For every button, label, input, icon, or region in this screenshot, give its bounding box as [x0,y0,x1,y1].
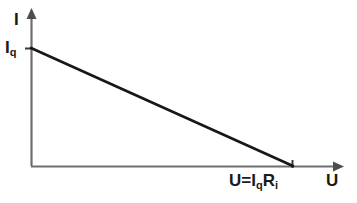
x-intercept-label: U=IqRi [229,172,278,189]
y-intercept-label-sub: q [10,46,17,58]
y-axis-arrow-icon [27,8,37,19]
plot-canvas [0,0,357,203]
x-intercept-prefix: U=I [229,171,256,190]
x-axis-arrow-icon [333,162,344,172]
x-axis-label: U [326,172,338,189]
y-axis-label: I [14,11,19,28]
x-intercept-sub-q: q [256,179,263,191]
x-intercept-sub-i: i [275,179,278,191]
characteristic-line [31,48,293,166]
x-intercept-resistance: R [263,171,275,190]
graph-figure: I Iq U=IqRi U [0,0,357,203]
y-intercept-label: Iq [5,39,16,56]
